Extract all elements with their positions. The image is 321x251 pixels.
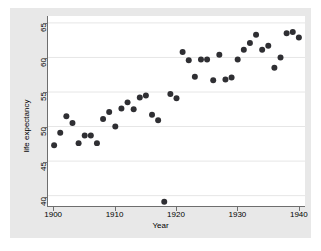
data-point (204, 57, 210, 63)
data-point (259, 47, 265, 53)
scatter-plot-figure: life expectancy 404550556065 19001910192… (0, 0, 321, 251)
x-axis-tick-mark (299, 207, 300, 211)
x-axis-title: Year (0, 221, 321, 230)
data-point (174, 95, 180, 101)
x-axis-tick-label: 1920 (167, 210, 185, 219)
x-axis-tick-label: 1900 (44, 210, 62, 219)
y-axis-tick-mark (43, 92, 47, 93)
data-point (271, 65, 277, 71)
data-point (278, 54, 284, 60)
data-point (76, 140, 82, 146)
data-point (216, 52, 222, 58)
data-point (265, 43, 271, 49)
y-axis-tick-mark (43, 197, 47, 198)
data-point (198, 57, 204, 63)
data-point (88, 133, 94, 139)
data-point (253, 32, 259, 38)
data-point (235, 57, 241, 63)
x-axis-tick-label: 1940 (290, 210, 308, 219)
data-point (247, 40, 253, 46)
data-point (180, 49, 186, 55)
y-axis-tick-labels: 404550556065 (24, 0, 44, 251)
data-point (241, 47, 247, 53)
data-point (112, 124, 118, 130)
data-point (51, 142, 57, 148)
data-point (143, 92, 149, 98)
data-point (63, 113, 69, 119)
data-point (94, 140, 100, 146)
data-point (137, 95, 143, 101)
data-point (106, 109, 112, 115)
plot-area (47, 16, 305, 207)
data-point (161, 199, 167, 205)
y-axis-tick-mark (43, 23, 47, 24)
data-point (149, 112, 155, 118)
data-point (125, 99, 131, 105)
data-point (284, 30, 290, 36)
data-markers (51, 29, 302, 205)
data-point (222, 77, 228, 83)
data-point (82, 133, 88, 139)
data-point (229, 75, 235, 81)
x-axis-tick-label: 1930 (229, 210, 247, 219)
y-axis-tick-mark (43, 162, 47, 163)
x-axis-tick-label: 1910 (106, 210, 124, 219)
data-point (57, 130, 63, 136)
x-axis-title-label: Year (152, 221, 168, 230)
data-point (118, 106, 124, 112)
plot-canvas (48, 16, 305, 206)
x-axis-tick-mark (176, 207, 177, 211)
data-point (131, 106, 137, 112)
x-axis-tick-mark (237, 207, 238, 211)
gridlines (48, 23, 305, 196)
data-point (155, 117, 161, 123)
x-axis-tick-mark (115, 207, 116, 211)
data-point (186, 57, 192, 63)
data-point (210, 77, 216, 83)
data-point (192, 74, 198, 80)
data-point (69, 120, 75, 126)
x-axis-tick-mark (53, 207, 54, 211)
data-point (167, 91, 173, 97)
y-axis-tick-mark (43, 127, 47, 128)
data-point (290, 29, 296, 35)
y-axis-tick-mark (43, 58, 47, 59)
data-point (296, 34, 302, 40)
data-point (100, 116, 106, 122)
